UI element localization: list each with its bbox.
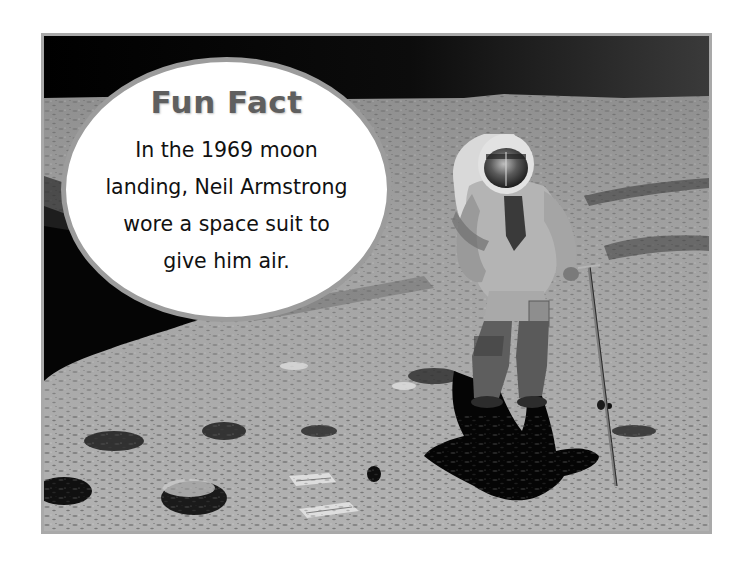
fun-fact-line: In the 1969 moon [66,132,387,169]
fun-fact-line: give him air. [66,243,387,280]
fun-fact-bubble: Fun Fact In the 1969 moon landing, Neil … [61,57,392,322]
fun-fact-line: wore a space suit to [66,206,387,243]
fun-fact-title: Fun Fact [66,84,387,120]
fun-fact-text: In the 1969 moon landing, Neil Armstrong… [66,132,387,280]
fun-fact-line: landing, Neil Armstrong [66,169,387,206]
